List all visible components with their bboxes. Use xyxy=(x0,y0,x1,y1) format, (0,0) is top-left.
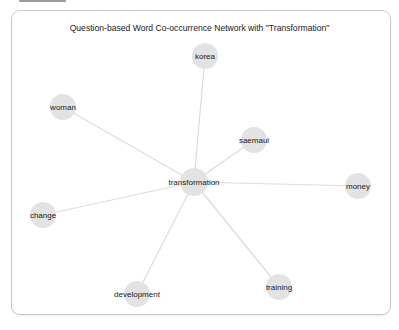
node-label-woman: woman xyxy=(50,103,76,112)
node-label-change: change xyxy=(30,211,56,220)
node-label-transformation: transformation xyxy=(168,178,219,187)
network-graph xyxy=(0,0,399,330)
node-label-training: training xyxy=(266,283,292,292)
edge-transformation-korea xyxy=(194,56,205,182)
node-label-saemaul: saemaul xyxy=(239,136,269,145)
network-nodes xyxy=(30,43,371,307)
edge-transformation-training xyxy=(194,182,279,287)
node-label-korea: korea xyxy=(195,52,215,61)
edge-transformation-development xyxy=(137,182,194,294)
node-label-money: money xyxy=(346,182,370,191)
edge-transformation-woman xyxy=(63,107,194,182)
node-label-development: development xyxy=(114,290,160,299)
edge-transformation-change xyxy=(43,182,194,215)
